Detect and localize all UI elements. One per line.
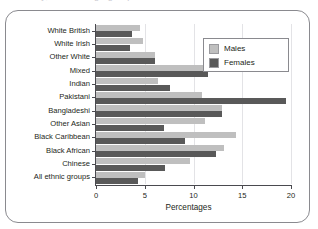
bar-females [96, 31, 132, 37]
legend-label-males: Males [224, 45, 245, 53]
cut-off-title-remnant: ity, sex and age group [0, 0, 318, 8]
bar-females [96, 165, 165, 171]
chart-legend: Males Females [203, 38, 289, 72]
bar-males [96, 52, 155, 58]
y-axis-category-label: Other Asian [50, 120, 90, 128]
x-axis-tick-label: 0 [94, 191, 98, 200]
cut-off-title-text: ity, sex and age group [36, 0, 133, 1]
bar-females [96, 151, 216, 157]
bar-females [96, 85, 170, 91]
bar-males [96, 25, 140, 31]
x-axis-tick [291, 185, 292, 189]
bar-females [96, 98, 286, 104]
y-axis-category-label: Black Caribbean [34, 133, 90, 141]
x-axis-tick-label: 15 [238, 191, 246, 200]
x-axis-tick-label: 5 [143, 191, 147, 200]
y-axis-category-label: All ethnic groups [34, 173, 90, 181]
bar-males [96, 65, 218, 71]
y-axis-category-label: Pakistani [59, 93, 90, 101]
bar-females [96, 178, 138, 184]
y-axis-category-label: Mixed [70, 67, 90, 75]
bar-males [96, 78, 158, 84]
y-axis-category-labels: White BritishWhite IrishOther WhiteMixed… [6, 24, 92, 184]
bar-males [96, 92, 202, 98]
chart-plot-wrapper: White BritishWhite IrishOther WhiteMixed… [6, 11, 311, 224]
legend-label-females: Females [224, 59, 255, 67]
bar-males [96, 132, 236, 138]
x-axis-title: Percentages [6, 203, 311, 212]
chart-figure: White BritishWhite IrishOther WhiteMixed… [5, 10, 310, 223]
y-axis-category-label: White British [47, 27, 90, 35]
x-axis-tick [194, 185, 195, 189]
y-axis-category-label: White Irish [54, 40, 90, 48]
x-axis-tick [96, 185, 97, 189]
x-axis-tick [145, 185, 146, 189]
bar-females [96, 138, 185, 144]
x-axis-tick-label: 10 [189, 191, 197, 200]
bar-females [96, 45, 130, 51]
bar-males [96, 145, 224, 151]
y-axis-category-label: Other White [49, 53, 90, 61]
bar-males [96, 118, 205, 124]
legend-swatch-females-icon [209, 58, 219, 68]
bar-males [96, 105, 222, 111]
y-axis-category-label: Black African [46, 147, 90, 155]
legend-item-females: Females [209, 57, 283, 69]
bar-males [96, 158, 190, 164]
bar-females [96, 125, 164, 131]
y-axis-category-label: Indian [69, 80, 90, 88]
y-axis-category-label: Bangladeshi [48, 107, 90, 115]
bar-females [96, 111, 222, 117]
y-axis-category-label: Chinese [62, 160, 90, 168]
bar-males [96, 38, 143, 44]
x-axis-tick-label: 20 [287, 191, 295, 200]
bar-males [96, 172, 145, 178]
bar-females [96, 58, 155, 64]
gridline [291, 24, 292, 184]
legend-swatch-males-icon [209, 44, 219, 54]
legend-item-males: Males [209, 43, 283, 55]
bar-females [96, 71, 208, 77]
x-axis-tick [242, 185, 243, 189]
